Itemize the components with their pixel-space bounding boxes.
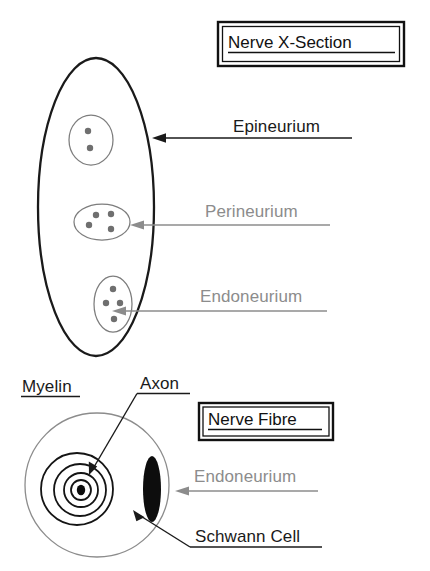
label-perineurium-text: Perineurium bbox=[205, 202, 298, 221]
label-axon-leader bbox=[94, 394, 137, 468]
axon-dot bbox=[108, 226, 114, 232]
title-text-nerve-x-section: Nerve X-Section bbox=[228, 33, 352, 52]
axon-dot bbox=[117, 300, 123, 306]
axon-dot bbox=[86, 222, 92, 228]
title-box-nerve-fibre: Nerve Fibre bbox=[199, 403, 333, 440]
label-myelin: Myelin bbox=[21, 377, 80, 397]
title-box-nerve-x-section: Nerve X-Section bbox=[218, 22, 404, 66]
nerve-diagram-svg: Nerve X-Section Epine bbox=[0, 0, 430, 571]
axon-dot bbox=[103, 300, 109, 306]
endoneurium-fascicle-bottom bbox=[94, 276, 132, 332]
label-endoneurium-nerve-fibre: Endoneurium bbox=[175, 467, 318, 496]
label-schwann-cell: Schwann Cell bbox=[133, 510, 322, 547]
schwann-cell-nucleus bbox=[143, 456, 161, 522]
label-epineurium: Epineurium bbox=[152, 117, 352, 143]
perineurium-fascicle-middle bbox=[74, 204, 130, 240]
label-perineurium-arrowhead bbox=[130, 220, 144, 229]
label-epineurium-text: Epineurium bbox=[233, 117, 320, 136]
label-endoneurium-fibre-arrowhead bbox=[175, 486, 189, 495]
axon-core bbox=[77, 485, 85, 495]
fascicle-bottom-outline bbox=[94, 276, 132, 332]
title-text-nerve-fibre: Nerve Fibre bbox=[208, 410, 297, 429]
label-schwann-cell-leader bbox=[139, 515, 190, 547]
label-schwann-cell-text: Schwann Cell bbox=[195, 527, 300, 546]
axon-dot bbox=[111, 316, 117, 322]
axon-dot bbox=[87, 145, 93, 151]
label-perineurium: Perineurium bbox=[130, 202, 330, 230]
label-endoneurium-fibre-text: Endoneurium bbox=[194, 467, 296, 486]
label-endoneurium-arrowhead bbox=[112, 306, 126, 315]
axon-dot bbox=[93, 212, 99, 218]
axon-dot bbox=[85, 128, 91, 134]
label-axon-text: Axon bbox=[140, 374, 179, 393]
diagram-canvas: Nerve X-Section Epine bbox=[0, 0, 430, 571]
axon-dot bbox=[110, 286, 116, 292]
label-endoneurium-text: Endoneurium bbox=[200, 287, 302, 306]
perineurium-fascicle-top bbox=[69, 115, 113, 165]
label-epineurium-arrowhead bbox=[152, 133, 166, 143]
axon-dot bbox=[108, 211, 114, 217]
label-axon: Axon bbox=[89, 374, 190, 475]
fascicle-top-outline bbox=[69, 115, 113, 165]
fascicle-middle-outline bbox=[74, 204, 130, 240]
label-schwann-cell-arrowhead bbox=[133, 510, 145, 521]
label-myelin-text: Myelin bbox=[22, 377, 72, 396]
